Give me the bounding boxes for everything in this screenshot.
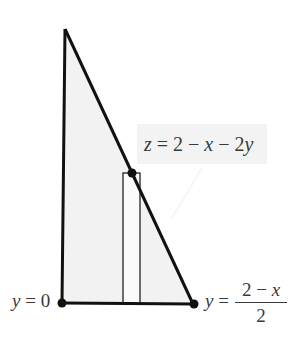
var-x: x <box>204 133 213 155</box>
slice-rectangle <box>123 173 140 304</box>
point-y0 <box>58 299 67 308</box>
left-bound-label: y = 0 <box>12 290 50 312</box>
surface-equation-label: z = 2 − x − 2y <box>144 133 253 156</box>
bound-value: = 0 <box>20 290 50 311</box>
var-y: y <box>245 133 254 155</box>
leader-line <box>172 168 202 218</box>
point-surface <box>128 169 137 178</box>
equals-sign: = <box>213 290 228 311</box>
numerator-const: 2 − <box>242 279 272 300</box>
var-z: z <box>144 133 152 155</box>
fraction-numerator: 2 − x <box>235 279 287 301</box>
fraction-bar <box>235 302 287 303</box>
eq-part-2: − 2 <box>213 133 244 155</box>
eq-part: = 2 − <box>152 133 205 155</box>
right-bound-label: y = <box>205 290 229 312</box>
var-x: x <box>272 279 280 300</box>
right-bound-fraction: 2 − x 2 <box>235 279 287 327</box>
fraction-denominator: 2 <box>235 305 287 327</box>
point-y-max <box>190 300 199 309</box>
base-edge <box>62 303 193 304</box>
